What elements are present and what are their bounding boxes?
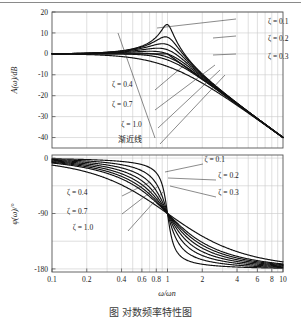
series-label: ζ = 0.3 (218, 188, 239, 197)
leader-line (170, 186, 216, 197)
series-label: ζ = 0.2 (268, 34, 289, 43)
y-tick-label: 10 (41, 29, 49, 38)
y-tick-label: -10 (38, 70, 48, 79)
leader-line (165, 164, 203, 172)
series-label: ζ = 0.4 (67, 188, 88, 197)
leader-line (155, 65, 215, 110)
phase-x-tick-labels: 0.10.20.40.60.81246810 (47, 269, 287, 284)
magnitude-plot: 20100-10-20-30-40 ζ = 0.1ζ = 0.2ζ = 0.3ζ… (10, 8, 289, 148)
x-tick-label: 10 (279, 275, 287, 284)
magnitude-y-axis-title: A(ω)/dB (10, 66, 19, 94)
y-tick-label: -20 (38, 91, 48, 100)
x-tick-label: 4 (235, 275, 239, 284)
magnitude-y-tick-labels: 20100-10-20-30-40 (38, 8, 56, 143)
y-tick-label: -90 (38, 209, 48, 218)
figure-caption: 图 对数频率特性图 (0, 306, 301, 319)
x-tick-label: 6 (256, 275, 260, 284)
magnitude-gridlines (52, 12, 283, 148)
y-tick-label: 0 (44, 49, 48, 58)
series-label: 渐近线 (118, 134, 142, 144)
x-tick-label: 1 (166, 275, 170, 284)
leader-line (213, 36, 236, 38)
y-tick-label: 0 (44, 154, 48, 163)
phase-plot: 0-90-180 ζ = 0.1ζ = 0.2ζ = 0.3ζ = 0.4ζ =… (10, 154, 287, 298)
y-tick-label: -40 (38, 133, 48, 142)
leader-line (160, 75, 225, 144)
series-label: ζ = 1.0 (73, 223, 94, 232)
x-axis-title: ω/ωn (158, 289, 176, 298)
y-tick-label: -180 (34, 265, 48, 274)
x-tick-label: 0.1 (47, 275, 57, 284)
series-label: ζ = 0.7 (67, 207, 88, 216)
x-tick-label: 2 (200, 275, 204, 284)
y-tick-label: 20 (41, 8, 49, 17)
bode-plot-canvas: 20100-10-20-30-40 ζ = 0.1ζ = 0.2ζ = 0.3ζ… (0, 0, 301, 320)
series-label: ζ = 0.2 (218, 171, 239, 180)
series-label: ζ = 0.7 (112, 100, 133, 109)
leader-line (213, 54, 236, 55)
x-tick-label: 0.8 (152, 275, 162, 284)
leader-line (122, 187, 157, 214)
y-tick-label: -30 (38, 112, 48, 121)
magnitude-annotations: ζ = 0.1ζ = 0.2ζ = 0.3ζ = 0.4ζ = 0.7ζ = 1… (112, 17, 289, 144)
leader-line (157, 19, 236, 28)
series-label: ζ = 1.0 (121, 120, 142, 129)
x-tick-label: 8 (270, 275, 274, 284)
series-label: ζ = 0.1 (268, 17, 289, 26)
leader-line (168, 178, 216, 180)
phase-y-axis-title: φ(ω)/° (10, 203, 19, 225)
series-label: ζ = 0.3 (268, 52, 289, 61)
leader-line (155, 62, 188, 90)
series-label: ζ = 0.1 (204, 155, 225, 164)
x-tick-label: 0.6 (137, 275, 147, 284)
bode-plot-figure: 20100-10-20-30-40 ζ = 0.1ζ = 0.2ζ = 0.3ζ… (0, 0, 301, 320)
x-tick-label: 0.4 (117, 275, 127, 284)
series-label: ζ = 0.4 (112, 80, 133, 89)
x-tick-label: 0.2 (82, 275, 92, 284)
